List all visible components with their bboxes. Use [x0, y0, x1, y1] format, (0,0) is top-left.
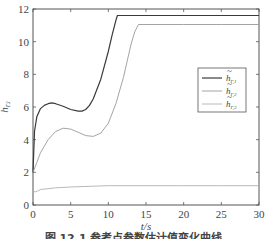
x-tick-label: 25	[216, 208, 228, 220]
x-tick-label: 10	[103, 208, 115, 220]
x-tick-label: 20	[178, 208, 190, 220]
y-tick-label: 10	[18, 36, 30, 48]
y-tick-label: 4	[24, 134, 30, 146]
line-chart: 051015202530024681012t/shΓ,i~hΓ,1~hΓ,2~h…	[0, 0, 267, 239]
y-tick-label: 0	[24, 199, 30, 211]
y-tick-label: 2	[24, 166, 30, 178]
y-tick-label: 6	[24, 101, 30, 113]
y-axis-label: hΓ,i	[0, 101, 11, 113]
legend: ~hΓ,1~hΓ,2~hΓ,3	[198, 66, 246, 112]
x-tick-label: 30	[254, 208, 266, 220]
x-tick-label: 5	[68, 208, 74, 220]
x-tick-label: 15	[141, 208, 153, 220]
y-tick-label: 12	[18, 3, 29, 15]
series-line-3	[33, 186, 259, 192]
x-tick-label: 0	[30, 208, 36, 220]
figure-caption: 图 12.1 参考点参数估计值变化曲线	[0, 229, 267, 239]
y-tick-label: 8	[24, 68, 30, 80]
